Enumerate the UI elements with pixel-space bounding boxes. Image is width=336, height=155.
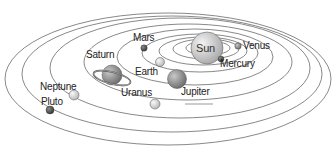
label-earth: Earth	[135, 67, 158, 77]
planet-saturn	[92, 65, 132, 88]
label-neptune: Neptune	[40, 82, 76, 92]
orbit-uranus	[50, 18, 310, 118]
label-pluto: Pluto	[41, 97, 63, 107]
label-venus: Venus	[243, 41, 270, 51]
planet-pluto	[46, 106, 54, 114]
label-sun: Sun	[196, 43, 215, 53]
solar-system-diagram	[0, 0, 336, 155]
label-saturn: Saturn	[86, 50, 114, 60]
planet-venus	[235, 43, 241, 49]
label-mercury: Mercury	[220, 59, 255, 69]
label-mars: Mars	[133, 33, 154, 43]
planet-uranus	[150, 99, 160, 109]
label-uranus: Uranus	[121, 88, 152, 98]
label-jupiter: Jupiter	[181, 87, 210, 97]
planet-mars	[141, 45, 147, 51]
